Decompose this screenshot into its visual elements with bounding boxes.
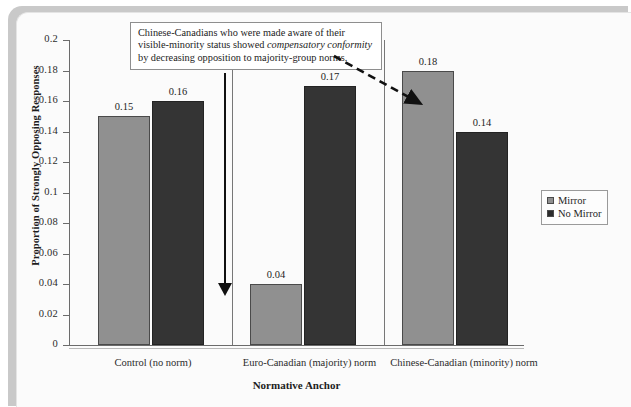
legend-item-no-mirror: No Mirror [547, 207, 601, 220]
annotation-text-part2: by decreasing opposition to majority-gro… [138, 52, 347, 63]
y-axis-tick-label: 0.14 [0, 125, 58, 136]
y-axis-tick-label: 0.2 [0, 33, 58, 44]
x-axis-title: Normative Anchor [69, 379, 524, 391]
bar-mirror-group-3 [402, 71, 454, 346]
annotation-arrow-solid-head [218, 283, 232, 296]
legend-swatch-mirror-icon [547, 197, 554, 204]
bar-value-label: 0.14 [450, 117, 514, 128]
y-axis-tick-label: 0.02 [0, 308, 58, 319]
y-axis-tick-label: 0.18 [0, 64, 58, 75]
y-axis-tick-mark [63, 132, 69, 133]
legend-swatch-no-mirror-icon [547, 210, 554, 217]
y-axis-tick-label: 0.08 [0, 216, 58, 227]
y-axis-tick-label: 0 [0, 338, 58, 349]
legend-label-no-mirror: No Mirror [558, 207, 601, 220]
y-axis-tick-mark [63, 223, 69, 224]
bar-value-label: 0.17 [298, 71, 362, 82]
y-axis-tick-label: 0.06 [0, 247, 58, 258]
x-axis-baseline-shadow [69, 348, 524, 349]
legend-label-mirror: Mirror [558, 194, 586, 207]
bar-value-label: 0.15 [92, 101, 156, 112]
y-axis-tick-mark [63, 193, 69, 194]
y-axis-tick-mark [63, 71, 69, 72]
x-axis-category-label-3: Chinese-Canadian (minority) norm [384, 357, 544, 368]
bar-no-mirror-group-2 [304, 86, 356, 345]
y-axis-tick-label: 0.04 [0, 277, 58, 288]
annotation-text-italic: compensatory conformity [267, 39, 372, 50]
y-axis-tick-label: 0.1 [0, 186, 58, 197]
bar-mirror-group-1 [98, 116, 150, 345]
y-axis-tick-mark [63, 315, 69, 316]
legend-item-mirror: Mirror [547, 194, 601, 207]
y-axis-line [69, 40, 70, 346]
bar-value-label: 0.16 [146, 86, 210, 97]
group-separator-1 [232, 40, 233, 345]
bar-no-mirror-group-1 [152, 101, 204, 345]
annotation-textbox: Chinese-Canadians who were made aware of… [130, 22, 382, 70]
y-axis-tick-mark [63, 101, 69, 102]
x-axis-category-label-1: Control (no norm) [70, 357, 236, 368]
y-axis-tick-label: 0.16 [0, 94, 58, 105]
bar-no-mirror-group-3 [456, 132, 508, 346]
x-axis-line [69, 345, 524, 346]
x-axis-category-label-2: Euro-Canadian (majority) norm [232, 357, 387, 368]
y-axis-tick-mark [63, 254, 69, 255]
bar-mirror-group-2 [250, 284, 302, 345]
y-axis-tick-mark [63, 162, 69, 163]
bar-value-label: 0.18 [396, 56, 460, 67]
y-axis-tick-mark [63, 284, 69, 285]
chart-legend: Mirror No Mirror [541, 190, 608, 225]
annotation-arrow-solid-shaft [224, 73, 226, 285]
y-axis-tick-label: 0.12 [0, 155, 58, 166]
group-separator-2 [384, 40, 385, 345]
y-axis-tick-mark [63, 345, 69, 346]
y-axis-tick-mark [63, 40, 69, 41]
bar-value-label: 0.04 [244, 269, 308, 280]
